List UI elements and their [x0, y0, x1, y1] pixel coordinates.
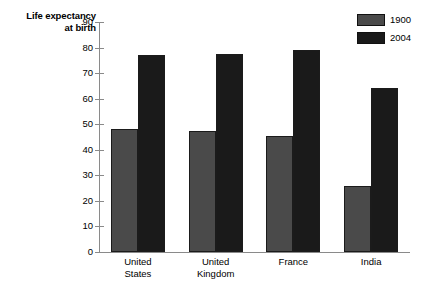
bar-1900-united-states [111, 129, 138, 252]
y-axis-tick [95, 226, 104, 227]
bar-group [189, 22, 243, 252]
x-axis-category-label: India [328, 256, 414, 268]
y-axis-tick [95, 201, 104, 202]
bar-2004-united-states [138, 55, 165, 252]
category-label-line1: France [250, 256, 336, 268]
y-axis-tick [95, 124, 104, 125]
y-axis-tick [95, 22, 104, 23]
bar-2004-united-kingdom [216, 54, 243, 252]
bar-1900-india [344, 186, 371, 252]
y-axis-tick [95, 252, 104, 253]
y-axis-tick [95, 150, 104, 151]
bar-2004-france [293, 50, 320, 252]
y-axis-tick-label: 80 [67, 43, 93, 53]
y-axis-tick-label: 40 [67, 145, 93, 155]
y-axis-tick-label: 20 [67, 196, 93, 206]
y-axis-tick-label: 10 [67, 221, 93, 231]
bar-1900-france [266, 136, 293, 252]
category-label-line2: States [95, 268, 181, 280]
y-axis-tick-label: 60 [67, 94, 93, 104]
category-label-line1: United [95, 256, 181, 268]
x-axis-category-label: UnitedKingdom [173, 256, 259, 280]
y-axis-tick [95, 73, 104, 74]
bar-2004-india [371, 88, 398, 252]
y-axis-tick-label: 0 [67, 247, 93, 257]
bar-group [111, 22, 165, 252]
y-axis-tick-label: 70 [67, 68, 93, 78]
y-axis-tick [95, 48, 104, 49]
bar-1900-united-kingdom [189, 131, 216, 252]
y-axis-tick-label: 30 [67, 170, 93, 180]
x-axis-category-label: France [250, 256, 336, 268]
x-axis-category-label: UnitedStates [95, 256, 181, 280]
x-axis-line [99, 252, 410, 253]
y-axis-tick [95, 99, 104, 100]
y-axis-tick-label: 50 [67, 119, 93, 129]
category-label-line1: India [328, 256, 414, 268]
y-axis-tick-labels: 0102030405060708090 [57, 0, 93, 294]
y-axis-tick-label: 90 [67, 17, 93, 27]
bar-group [344, 22, 398, 252]
bars-layer [99, 22, 410, 252]
y-axis-tick [95, 175, 104, 176]
bar-group [266, 22, 320, 252]
life-expectancy-bar-chart: Life expectancy at birth 1900 2004 01020… [0, 0, 430, 294]
category-label-line1: United [173, 256, 259, 268]
x-axis-category-labels: UnitedStatesUnitedKingdomFranceIndia [99, 256, 410, 292]
category-label-line2: Kingdom [173, 268, 259, 280]
